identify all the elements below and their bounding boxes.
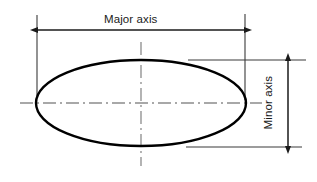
major-axis-label: Major axis — [104, 13, 157, 25]
ellipse-dimension-figure: Major axis Minor axis — [0, 0, 317, 182]
minor-axis-label: Minor axis — [262, 76, 274, 129]
